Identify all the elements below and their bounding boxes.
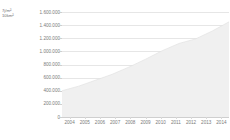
x-axis-tickmark xyxy=(176,117,177,119)
x-axis-tickmark xyxy=(85,117,86,119)
x-axis: 2004200520062007200820092010201120122013… xyxy=(62,120,229,130)
x-axis-tick-label: 2008 xyxy=(125,120,135,126)
plot-area xyxy=(62,12,229,117)
x-axis-tick-label: 2009 xyxy=(140,120,150,126)
area-series-fill xyxy=(62,22,229,117)
x-axis-tick-label: 2005 xyxy=(80,120,90,126)
y-axis-tick-label: 800.000 xyxy=(30,62,60,67)
y-axis-tick-label: 1.600.000 xyxy=(30,10,60,15)
x-axis-tickmark xyxy=(115,117,116,119)
x-axis-tickmark xyxy=(130,117,131,119)
y-axis-tick-label: 400.000 xyxy=(30,88,60,93)
x-axis-tick-label: 2014 xyxy=(216,120,226,126)
x-axis-tick-label: 2012 xyxy=(186,120,196,126)
x-axis-tickmark xyxy=(221,117,222,119)
x-axis-tickmark xyxy=(70,117,71,119)
y-axis-tick-label: 1.400.000 xyxy=(30,23,60,28)
y-axis-unit-line-2: 10km² xyxy=(2,13,30,18)
x-axis-tick-label: 2011 xyxy=(171,120,181,126)
x-axis-tick-label: 2007 xyxy=(110,120,120,126)
y-axis-tick-label: 200.000 xyxy=(30,101,60,106)
x-axis-tick-label: 2006 xyxy=(95,120,105,126)
x-axis-tickmark xyxy=(100,117,101,119)
x-axis-tickmark xyxy=(146,117,147,119)
y-axis-unit-label: 7j/m² 10km² xyxy=(2,8,30,18)
area-chart: 7j/m² 10km² 1.600.0001.400.0001.200.0001… xyxy=(0,0,230,140)
y-axis-tick-label: 1.200.000 xyxy=(30,36,60,41)
x-axis-tickmark xyxy=(161,117,162,119)
x-axis-tick-label: 2013 xyxy=(201,120,211,126)
x-axis-tickmark xyxy=(191,117,192,119)
area-series xyxy=(62,12,229,117)
x-axis-tickmark xyxy=(206,117,207,119)
y-axis-tick-label: 0 xyxy=(30,115,60,120)
x-axis-tick-label: 2010 xyxy=(156,120,166,126)
y-axis-tick-label: 1.000.000 xyxy=(30,49,60,54)
y-axis-tick-label: 600.000 xyxy=(30,75,60,80)
x-axis-tick-label: 2004 xyxy=(64,120,74,126)
